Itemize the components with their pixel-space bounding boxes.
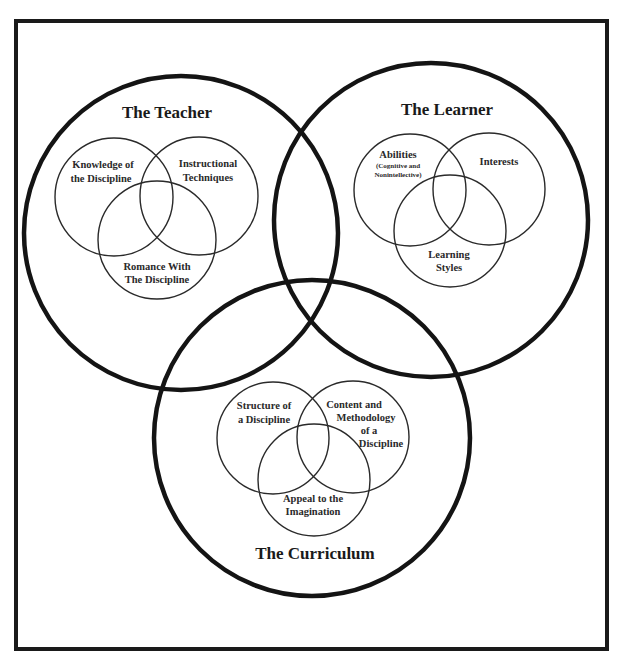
structure-label-1: Structure of bbox=[237, 400, 292, 411]
instructional-label-1: Instructional bbox=[179, 158, 237, 169]
venn-diagram: The Teacher Knowledge of the Discipline … bbox=[0, 0, 619, 661]
teacher-title: The Teacher bbox=[122, 103, 213, 122]
content-label-2: Methodology bbox=[337, 412, 397, 423]
teacher-group: The Teacher Knowledge of the Discipline … bbox=[55, 103, 258, 299]
curriculum-title: The Curriculum bbox=[255, 544, 374, 563]
romance-label-2: The Discipline bbox=[125, 274, 190, 285]
abilities-label: Abilities bbox=[379, 149, 416, 160]
structure-label-2: a Discipline bbox=[238, 414, 291, 425]
learning-styles-label-1: Learning bbox=[428, 249, 470, 260]
interests-circle bbox=[433, 133, 545, 245]
content-circle bbox=[297, 381, 409, 493]
appeal-label-2: Imagination bbox=[286, 506, 341, 517]
appeal-label-1: Appeal to the bbox=[283, 493, 343, 504]
learning-styles-label-2: Styles bbox=[436, 262, 462, 273]
instructional-label-2: Techniques bbox=[183, 172, 233, 183]
instructional-circle bbox=[140, 137, 258, 255]
content-label-3: of a bbox=[361, 425, 378, 436]
abilities-sublabel-2: Nonintellective) bbox=[374, 171, 422, 179]
curriculum-group: Structure of a Discipline Content and Me… bbox=[217, 381, 409, 563]
learner-group: The Learner Abilities (Cognitive and Non… bbox=[354, 100, 545, 287]
knowledge-label-2: the Discipline bbox=[71, 173, 132, 184]
content-label-1: Content and bbox=[326, 399, 382, 410]
content-label-4: Discipline bbox=[359, 438, 404, 449]
knowledge-label-1: Knowledge of bbox=[72, 159, 134, 170]
appeal-circle bbox=[258, 424, 370, 536]
romance-label-1: Romance With bbox=[124, 261, 191, 272]
teacher-circle bbox=[24, 76, 338, 390]
abilities-sublabel-1: (Cognitive and bbox=[376, 162, 420, 170]
learner-title: The Learner bbox=[401, 100, 494, 119]
interests-label: Interests bbox=[480, 156, 519, 167]
